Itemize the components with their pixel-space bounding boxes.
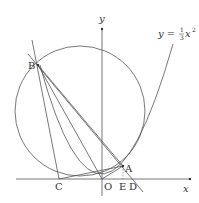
equation-exponent: 2: [192, 26, 196, 33]
curve-equation-label: y = 1 3 x 2: [157, 26, 196, 41]
x-axis-label: x: [183, 183, 189, 194]
equation-variable: x: [185, 28, 191, 39]
label-E: E: [119, 181, 126, 192]
segment-BA: [38, 65, 123, 166]
label-C: C: [55, 181, 63, 192]
geometry-figure: y x B A C O E D y = 1 3 x 2: [0, 0, 199, 203]
equation-prefix: y =: [157, 28, 175, 39]
parabola-curve: [40, 44, 173, 174]
point-B: [37, 64, 39, 66]
fraction-denominator: 3: [180, 34, 184, 41]
label-A: A: [124, 163, 133, 174]
y-axis-arrow-icon: [101, 28, 103, 30]
label-D: D: [129, 181, 137, 192]
segment-CA: [59, 166, 123, 179]
y-axis-label: y: [98, 13, 105, 24]
diagram-canvas: y x B A C O E D y = 1 3 x 2: [0, 0, 199, 203]
label-O: O: [104, 181, 112, 192]
label-B: B: [28, 60, 35, 71]
line-BC-extended: [32, 40, 59, 179]
x-axis-arrow-icon: [189, 178, 191, 180]
point-A: [122, 165, 124, 167]
fraction-numerator: 1: [180, 26, 184, 33]
